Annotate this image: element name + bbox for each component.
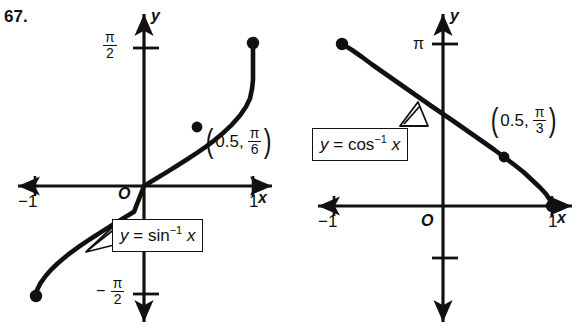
arccos-point-annotation: ( 0.5, π 3 ) <box>489 105 559 135</box>
arccos-point-y-num: π <box>533 105 547 119</box>
left-ytick-neg-den: 2 <box>111 291 125 306</box>
problem-number: 67. <box>4 8 28 25</box>
arccos-eq-equals: = <box>333 135 343 154</box>
arccos-eq-exp: −1 <box>374 133 387 145</box>
arccos-endpoint-left <box>336 38 348 50</box>
left-y-tick-label-neg-pi-over-2: − π 2 <box>96 276 124 306</box>
left-x-tick-label-1: 1 <box>249 193 258 210</box>
arcsin-eq-fn: sin <box>148 226 170 245</box>
left-y-axis-label: y <box>151 8 160 24</box>
arcsin-endpoint-left <box>30 290 42 302</box>
right-x-axis-label: x <box>557 210 566 226</box>
left-graph-arcsin <box>18 14 272 322</box>
arccos-eq-y: y <box>320 135 329 154</box>
left-ytick-neg-num: π <box>111 276 125 290</box>
arcsin-endpoint-right <box>247 37 259 49</box>
arcsin-eq-equals: = <box>133 226 143 245</box>
arccos-paren-close: ) <box>549 106 557 134</box>
arccos-point-x: 0.5, <box>500 112 528 129</box>
left-ytick-pos-num: π <box>103 30 117 44</box>
arccos-paren-open: ( <box>491 106 499 134</box>
left-ytick-neg-sign: − <box>96 282 105 299</box>
arccos-point-y-den: 3 <box>533 120 547 135</box>
left-y-tick-label-pi-over-2: π 2 <box>103 30 117 60</box>
left-origin-label: O <box>118 186 130 202</box>
arcsin-point-y-num: π <box>248 126 262 140</box>
arcsin-paren-open: ( <box>206 127 214 155</box>
arccos-eq-fn: cos <box>348 135 374 154</box>
right-graph-arccos <box>318 14 572 322</box>
arcsin-eq-arg: x <box>187 226 196 245</box>
arcsin-point-x: 0.5, <box>215 133 243 150</box>
arccos-marked-point <box>499 152 510 163</box>
left-ytick-pos-den: 2 <box>103 45 117 60</box>
arcsin-eq-exp: −1 <box>170 224 183 236</box>
inverse-trig-graphs-figure <box>0 0 585 332</box>
right-y-tick-label-pi: π <box>413 36 424 52</box>
arcsin-paren-close: ) <box>264 127 272 155</box>
left-x-axis-label: x <box>258 190 267 206</box>
arcsin-equation-callout: y = sin−1 x <box>112 219 203 252</box>
arcsin-marked-point <box>192 122 203 133</box>
arccos-equation-callout: y = cos−1 x <box>312 128 408 161</box>
right-x-tick-label-1: 1 <box>548 213 557 230</box>
left-x-tick-label-neg1: −1 <box>18 193 37 210</box>
right-x-tick-label-neg1: −1 <box>318 213 337 230</box>
right-y-axis-label: y <box>450 8 459 24</box>
arcsin-point-y-den: 6 <box>248 141 262 156</box>
right-origin-label: O <box>421 213 433 229</box>
arcsin-point-annotation: ( 0.5, π 6 ) <box>204 126 274 156</box>
arccos-eq-arg: x <box>392 135 401 154</box>
arcsin-eq-y: y <box>120 226 129 245</box>
